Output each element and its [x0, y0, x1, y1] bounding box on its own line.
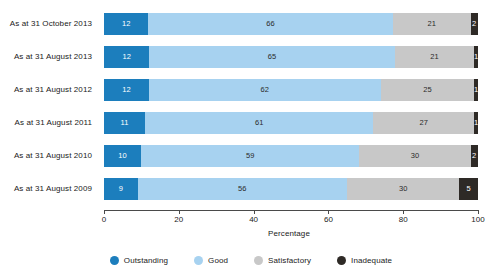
legend-swatch-circle-icon	[254, 256, 263, 265]
bar-segment-value: 21	[427, 20, 436, 28]
bar-segment-outstanding: 10	[104, 145, 141, 167]
bar-segment-good: 66	[148, 13, 392, 35]
bar-segment-good: 65	[149, 46, 395, 68]
bar-segment-value: 30	[399, 185, 408, 193]
x-axis-tick	[179, 210, 180, 214]
x-axis-tick-label: 40	[249, 215, 258, 224]
bar-segment-value: 1	[474, 53, 478, 61]
bar-segment-value: 21	[430, 53, 439, 61]
bar-segment-inadequate: 1	[474, 112, 478, 134]
x-axis-tick	[478, 210, 479, 214]
bar-segment-value: 2	[472, 20, 476, 28]
bar-segment-inadequate: 2	[471, 13, 478, 35]
legend-swatch-circle-icon	[110, 256, 119, 265]
bar-segment-good: 62	[149, 79, 381, 101]
x-axis-tick	[328, 210, 329, 214]
bar-row: 1262251	[104, 79, 478, 101]
bar-segment-value: 61	[255, 119, 264, 127]
bar-segment-value: 66	[266, 20, 275, 28]
bar-segment-value: 25	[423, 86, 432, 94]
bar-segment-value: 11	[121, 119, 129, 127]
bar-segment-value: 65	[268, 53, 277, 61]
bar-segment-value: 30	[411, 152, 420, 160]
y-axis-label: As at 31 August 2011	[15, 112, 92, 134]
bar-segment-satisfactory: 25	[381, 79, 475, 101]
legend-item-good[interactable]: Good	[194, 256, 228, 265]
plot-area: 1266212126521112622511161271105930295630…	[104, 11, 478, 209]
bar-segment-value: 62	[261, 86, 270, 94]
bar-segment-inadequate: 5	[459, 178, 478, 200]
legend-label: Outstanding	[124, 256, 168, 265]
bar-segment-value: 27	[419, 119, 428, 127]
bar-segment-satisfactory: 30	[347, 178, 459, 200]
x-axis-line	[104, 210, 479, 211]
legend-item-outstanding[interactable]: Outstanding	[110, 256, 168, 265]
bar-row: 1059302	[104, 145, 478, 167]
bar-segment-value: 1	[474, 86, 478, 94]
bar-row: 956305	[104, 178, 478, 200]
bar-segment-good: 56	[138, 178, 347, 200]
x-axis-tick-label: 20	[174, 215, 183, 224]
bar-segment-inadequate: 1	[474, 46, 478, 68]
legend-item-inadequate[interactable]: Inadequate	[337, 256, 392, 265]
bar-segment-inadequate: 1	[474, 79, 478, 101]
y-axis-label: As at 31 August 2013	[14, 46, 92, 68]
x-axis-tick	[254, 210, 255, 214]
y-axis-label: As at 31 August 2009	[14, 178, 92, 200]
bar-segment-satisfactory: 30	[359, 145, 470, 167]
x-axis-tick-label: 80	[399, 215, 408, 224]
bar-segment-value: 12	[122, 86, 131, 94]
bar-segment-satisfactory: 21	[393, 13, 471, 35]
bar-segment-value: 56	[238, 185, 247, 193]
bar-segment-outstanding: 11	[104, 112, 145, 134]
bar-segment-value: 10	[118, 152, 127, 160]
legend-label: Satisfactory	[268, 256, 311, 265]
bar-segment-good: 61	[145, 112, 373, 134]
bar-row: 1266212	[104, 13, 478, 35]
x-axis-tick	[403, 210, 404, 214]
y-axis-category-labels: As at 31 October 2013As at 31 August 201…	[0, 11, 98, 209]
bar-segment-value: 9	[119, 185, 123, 193]
y-axis-label: As at 31 August 2010	[14, 145, 92, 167]
y-axis-label: As at 31 October 2013	[10, 13, 92, 35]
bar-segment-outstanding: 12	[104, 13, 148, 35]
bar-segment-value: 5	[466, 185, 470, 193]
x-axis-tick	[104, 210, 105, 214]
bar-segment-outstanding: 12	[104, 79, 149, 101]
legend-label: Inadequate	[351, 256, 392, 265]
legend-swatch-circle-icon	[337, 256, 346, 265]
x-axis-title-text: Percentage	[268, 229, 310, 238]
legend-label: Good	[208, 256, 228, 265]
x-axis-tick-label: 60	[324, 215, 333, 224]
bar-segment-inadequate: 2	[471, 145, 478, 167]
bar-segment-value: 1	[474, 119, 478, 127]
bar-segment-value: 12	[122, 20, 131, 28]
x-axis-title: Percentage	[0, 229, 502, 238]
bar-row: 1265211	[104, 46, 478, 68]
bar-segment-value: 12	[122, 53, 131, 61]
x-axis-tick-label: 100	[471, 215, 484, 224]
bar-segment-value: 2	[472, 152, 476, 160]
bar-segment-outstanding: 12	[104, 46, 149, 68]
y-axis-label: As at 31 August 2012	[14, 79, 92, 101]
bar-segment-satisfactory: 21	[395, 46, 474, 68]
bar-row: 1161271	[104, 112, 478, 134]
bar-segment-satisfactory: 27	[373, 112, 474, 134]
x-axis-tick-label: 0	[102, 215, 106, 224]
bar-segment-outstanding: 9	[104, 178, 138, 200]
stacked-bar-chart: As at 31 October 2013As at 31 August 201…	[0, 0, 502, 280]
legend-item-satisfactory[interactable]: Satisfactory	[254, 256, 311, 265]
bar-segment-value: 59	[246, 152, 255, 160]
bar-segment-good: 59	[141, 145, 359, 167]
chart-legend: OutstandingGoodSatisfactoryInadequate	[0, 256, 502, 265]
legend-swatch-circle-icon	[194, 256, 203, 265]
